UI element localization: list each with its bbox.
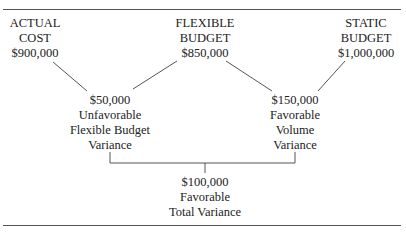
actual-cost-node: ACTUAL COST $900,000 [0, 16, 70, 61]
static-budget-title-1: STATIC [326, 16, 406, 31]
fbv-amount: $50,000 [50, 93, 170, 108]
flexible-budget-title-2: BUDGET [160, 31, 250, 46]
actual-cost-title-1: ACTUAL [0, 16, 70, 31]
static-budget-value: $1,000,000 [326, 46, 406, 61]
total-name: Total Variance [150, 205, 260, 220]
volume-variance: $150,000 Favorable Volume Variance [250, 93, 340, 153]
volume-amount: $150,000 [250, 93, 340, 108]
total-bracket [110, 152, 295, 163]
static-to-volume-line [318, 61, 345, 91]
fbv-name-2: Variance [50, 138, 170, 153]
flexible-budget-node: FLEXIBLE BUDGET $850,000 [160, 16, 250, 61]
fbv-type: Unfavorable [50, 108, 170, 123]
total-amount: $100,000 [150, 175, 260, 190]
flexible-budget-title-1: FLEXIBLE [160, 16, 250, 31]
actual-to-fbv-line [53, 62, 87, 91]
flexible-budget-variance: $50,000 Unfavorable Flexible Budget Vari… [50, 93, 170, 153]
volume-name-2: Variance [250, 138, 340, 153]
actual-cost-title-2: COST [0, 31, 70, 46]
total-variance: $100,000 Favorable Total Variance [150, 175, 260, 220]
flexible-budget-value: $850,000 [160, 46, 250, 61]
actual-cost-value: $900,000 [0, 46, 70, 61]
flexible-to-volume-line [226, 61, 272, 91]
volume-name-1: Volume [250, 123, 340, 138]
fbv-name-1: Flexible Budget [50, 123, 170, 138]
flexible-to-fbv-line [133, 61, 177, 89]
static-budget-node: STATIC BUDGET $1,000,000 [326, 16, 406, 61]
volume-type: Favorable [250, 108, 340, 123]
static-budget-title-2: BUDGET [326, 31, 406, 46]
total-type: Favorable [150, 190, 260, 205]
